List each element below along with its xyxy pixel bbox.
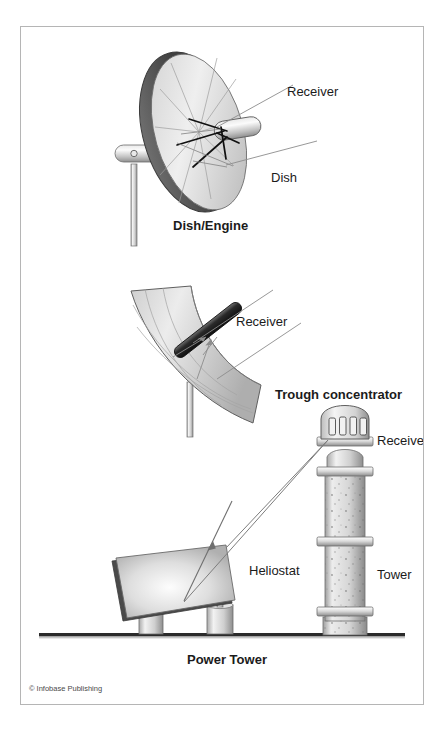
solar-concentrator-diagram: Receiver Dish Dish/Engine (0, 0, 446, 734)
trough-mount (187, 382, 193, 437)
tower-label: Tower (377, 567, 412, 582)
figure-frame: Receiver Dish Dish/Engine (20, 26, 424, 705)
panel-power-tower: Receiver Tower Heliostat Power Tower (39, 406, 423, 668)
dish-receiver-label: Receiver (287, 84, 339, 99)
tower-structure (317, 437, 373, 635)
dish-engine-caption: Dish/Engine (173, 218, 248, 233)
panel-dish-engine: Receiver Dish Dish/Engine (115, 40, 339, 246)
trough-caption: Trough concentrator (275, 387, 402, 402)
heliostat (112, 545, 235, 634)
dish-label: Dish (271, 170, 297, 185)
tower-receiver-head (321, 406, 369, 440)
tower-receiver-label: Receiver (377, 433, 423, 448)
trough-receiver-label: Receiver (236, 314, 288, 329)
heliostat-label: Heliostat (249, 563, 300, 578)
power-tower-caption: Power Tower (187, 652, 267, 667)
diagram-canvas: Receiver Dish Dish/Engine (21, 27, 423, 704)
copyright-notice: © Infobase Publishing (29, 684, 102, 693)
